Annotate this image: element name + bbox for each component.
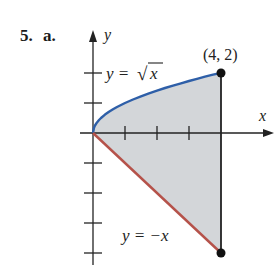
svg-text:y =: y =: [104, 64, 129, 83]
problem-part: a.: [43, 26, 56, 45]
negative-x-line-label: y = −x: [120, 226, 169, 245]
problem-label: 5. a.: [20, 26, 56, 46]
point-bottom: [217, 249, 226, 258]
sqrt-curve-label: y = √ x: [104, 63, 163, 84]
svg-text:x: x: [149, 64, 158, 83]
x-axis-arrow-icon: [263, 129, 274, 137]
point-top: [217, 69, 226, 78]
y-axis-label: y: [102, 26, 112, 44]
point-label: (4, 2): [203, 46, 238, 64]
y-axis-arrow-icon: [89, 30, 97, 42]
problem-number: 5.: [20, 26, 33, 45]
figure: 5. a.: [0, 0, 280, 265]
x-axis-label: x: [258, 107, 266, 124]
svg-text:√: √: [137, 63, 148, 84]
